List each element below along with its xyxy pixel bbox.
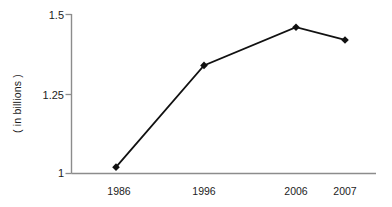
data-point-2007 xyxy=(341,36,349,44)
plot-area xyxy=(0,0,392,207)
data-line-series xyxy=(116,27,345,167)
line-chart: ( in billions ) 1.5 1.25 1 1986 1996 200… xyxy=(0,0,392,207)
data-point-2006 xyxy=(292,23,300,31)
data-markers xyxy=(112,23,349,171)
